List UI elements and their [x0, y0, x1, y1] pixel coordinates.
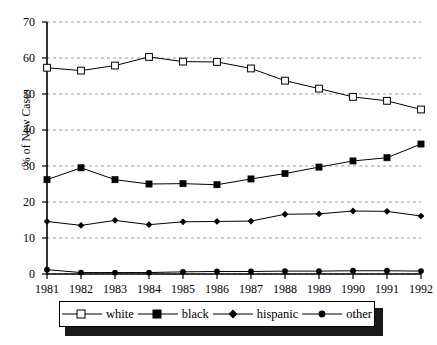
data-point-black [418, 141, 424, 147]
data-point-white [112, 62, 119, 69]
legend-item-hispanic[interactable]: hispanic [213, 307, 299, 322]
data-point-hispanic [418, 213, 425, 220]
data-point-hispanic [180, 218, 187, 225]
y-axis-tick-label: 30 [9, 160, 35, 172]
series-line-hispanic [47, 211, 421, 225]
data-point-other [282, 268, 288, 274]
data-point-other [214, 269, 220, 275]
legend-label-other: other [346, 307, 372, 322]
data-point-white [146, 54, 153, 61]
y-axis-tick-label: 50 [9, 88, 35, 100]
data-point-other [146, 270, 152, 276]
y-axis-tick-label: 0 [9, 268, 35, 280]
x-axis-tick-label: 1992 [401, 283, 437, 295]
data-point-black [350, 158, 356, 164]
data-point-black [146, 181, 152, 187]
series-line-other [47, 270, 421, 273]
data-point-other [384, 268, 390, 274]
data-point-black [384, 155, 390, 161]
legend-marker-filled-square-icon [138, 308, 178, 320]
data-point-black [316, 164, 322, 170]
y-axis-tick-label: 20 [9, 196, 35, 208]
data-point-white [78, 67, 85, 74]
data-point-other [78, 270, 84, 276]
series-line-white [47, 57, 421, 110]
data-point-hispanic [146, 221, 153, 228]
legend-label-white: white [106, 307, 134, 322]
data-point-other [112, 270, 118, 276]
data-point-hispanic [384, 208, 391, 215]
y-axis-tick-label: 10 [9, 232, 35, 244]
data-point-black [214, 182, 220, 188]
legend-label-black: black [182, 307, 209, 322]
data-point-white [282, 77, 289, 84]
data-point-other [44, 267, 50, 273]
data-point-black [282, 170, 288, 176]
legend-marker-filled-diamond-icon [213, 308, 253, 320]
data-point-other [248, 269, 254, 275]
data-point-black [112, 177, 118, 183]
data-point-white [180, 58, 187, 65]
data-point-black [44, 177, 50, 183]
y-axis-tick-label: 70 [9, 16, 35, 28]
data-point-black [248, 176, 254, 182]
data-point-other [180, 269, 186, 275]
data-point-hispanic [282, 211, 289, 218]
data-point-hispanic [214, 218, 221, 225]
data-point-other [418, 268, 424, 274]
data-point-hispanic [316, 210, 323, 217]
data-point-black [78, 165, 84, 171]
legend-item-white[interactable]: white [62, 307, 134, 322]
data-point-white [316, 85, 323, 92]
data-point-hispanic [78, 222, 85, 229]
data-point-other [316, 268, 322, 274]
y-axis-tick-label: 40 [9, 124, 35, 136]
legend-marker-open-square-icon [62, 308, 102, 320]
data-point-hispanic [350, 208, 357, 215]
data-point-white [248, 65, 255, 72]
data-point-hispanic [44, 218, 51, 225]
legend-label-hispanic: hispanic [257, 307, 299, 322]
data-point-hispanic [112, 217, 119, 224]
legend-item-other[interactable]: other [302, 307, 372, 322]
y-axis-tick-label: 60 [9, 52, 35, 64]
series-line-black [47, 144, 421, 185]
data-point-white [384, 97, 391, 104]
data-point-white [418, 106, 425, 113]
data-point-black [180, 181, 186, 187]
data-point-white [214, 59, 221, 66]
chart-legend: white black hispanic other [59, 301, 375, 327]
legend-marker-filled-circle-icon [302, 308, 342, 320]
data-point-hispanic [248, 218, 255, 225]
data-point-white [44, 64, 51, 71]
data-point-white [350, 93, 357, 100]
data-point-other [350, 268, 356, 274]
legend-item-black[interactable]: black [138, 307, 209, 322]
